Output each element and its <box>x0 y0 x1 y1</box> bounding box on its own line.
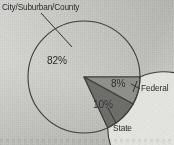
pie-chart-figure: City/Suburban/County 82% 8% 10% Federal … <box>0 0 174 145</box>
slice-value-label-state: 10% <box>93 99 113 110</box>
slice-value-label-city-suburban-county: 82% <box>47 55 67 66</box>
cropped-caption-row <box>0 139 174 145</box>
slice-value-label-federal: 8% <box>111 78 125 89</box>
pie-chart-graphic <box>0 0 174 145</box>
leader-line-city-suburban-county <box>41 13 72 47</box>
slice-callout-label-state: State <box>113 124 132 133</box>
slice-callout-label-federal: Federal <box>141 84 168 93</box>
chart-title: City/Suburban/County <box>2 3 79 12</box>
